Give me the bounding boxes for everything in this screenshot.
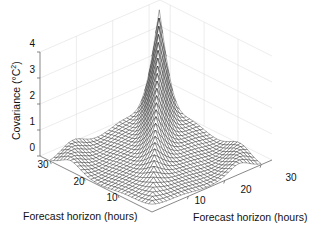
left-tick-20: 20 (73, 176, 85, 187)
left-tick-30: 30 (37, 159, 49, 170)
covariance-surface-plot: 0 1 2 3 4 Covariance (°C2) 30 20 10 10 2… (0, 0, 313, 235)
z-axis-label: Covariance (°C2) (10, 61, 22, 140)
right-tick-20: 20 (240, 184, 252, 195)
left-tick-10: 10 (106, 192, 118, 203)
z-tick-labels: 0 1 2 3 4 (29, 38, 35, 153)
back-wall-gridline (160, 0, 272, 56)
z-tick-0: 0 (29, 142, 35, 153)
right-tick-10: 10 (194, 195, 206, 206)
back-wall-gridline (40, 26, 160, 78)
back-wall-gridline (40, 52, 160, 104)
left-axis-label: Forecast horizon (hours) (23, 210, 137, 222)
right-axis-label: Forecast horizon (hours) (193, 211, 307, 223)
back-wall-gridline (160, 26, 272, 82)
back-wall-gridline (40, 0, 160, 52)
back-wall-gridline (160, 52, 272, 108)
z-tick-3: 3 (29, 64, 35, 75)
z-tick-2: 2 (29, 90, 35, 101)
right-tick-30: 30 (285, 172, 297, 183)
z-tick-4: 4 (29, 38, 35, 49)
z-tick-1: 1 (29, 116, 35, 127)
